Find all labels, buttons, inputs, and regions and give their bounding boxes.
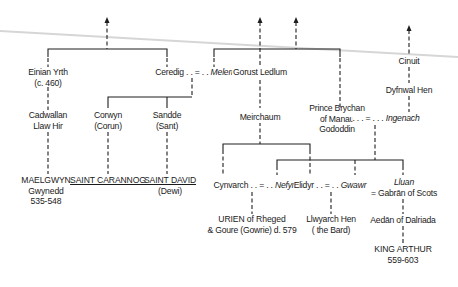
node-name: SAINT DAVID bbox=[144, 175, 196, 186]
node-dyfnwal-hen: Dyfnwal Hen bbox=[385, 85, 434, 96]
spouse-line: = Gabrān of Scots bbox=[371, 188, 437, 199]
node-maelgwyn: MAELGWYN Gwynedd 535-548 bbox=[21, 175, 70, 207]
node-name: Llwyarch Hen bbox=[306, 214, 356, 225]
node-corwyn: Corwyn (Corun) bbox=[94, 110, 122, 131]
node-name: Dyfnwal Hen bbox=[386, 85, 433, 96]
node-dates: 559-603 bbox=[374, 255, 431, 266]
node-aedan: Aedān of Dalriada bbox=[370, 215, 435, 226]
node-llywarch-hen: Llwyarch Hen ( the Bard) bbox=[306, 214, 356, 235]
node-name: Ceredig bbox=[155, 67, 184, 77]
node-name: Corwyn bbox=[94, 110, 122, 121]
node-alias: (Dewi) bbox=[144, 186, 196, 197]
spouse-name: Gwawr bbox=[341, 180, 367, 190]
node-sandde: Sandde (Sant) bbox=[153, 110, 181, 131]
node-alias: (Sant) bbox=[153, 121, 181, 132]
node-epithet: ( the Bard) bbox=[306, 225, 356, 236]
node-urien: URIEN of Rheged & Goure (Gowrie) d. 579 bbox=[207, 214, 296, 235]
node-name: Gorust Ledlum bbox=[233, 67, 287, 78]
node-cadwallan: Cadwallan Llaw Hir bbox=[29, 110, 67, 131]
node-name: Einian Yrth bbox=[28, 67, 68, 78]
node-realm: Gododdin bbox=[309, 124, 364, 135]
node-name: Elidyr bbox=[294, 180, 314, 190]
node-name: Meirchaum bbox=[240, 112, 281, 123]
spouse-name: Meleri bbox=[211, 67, 233, 77]
node-lluan: Lluan = Gabrān of Scots bbox=[371, 177, 437, 198]
node-einian-yrth: Einian Yrth (c. 460) bbox=[28, 67, 68, 88]
node-cinuit: Cinuit bbox=[398, 56, 421, 67]
node-ceredig-marriage: Ceredig . . = . . Meleri bbox=[155, 67, 233, 78]
node-epithet: Llaw Hir bbox=[29, 121, 67, 132]
node-name: Sandde bbox=[153, 110, 181, 121]
spouse-name: Ingenach bbox=[386, 113, 420, 123]
node-gorust-ledlum: Gorust Ledlum bbox=[232, 67, 288, 78]
marriage-sign: . . = . . bbox=[314, 180, 341, 190]
node-cynvarch-marriage: Cynvarch . . = . . Nefyn bbox=[214, 180, 297, 191]
node-name: MAELGWYN bbox=[21, 175, 70, 186]
node-name: Cynvarch bbox=[214, 180, 249, 190]
node-brychan-marriage: . . . = . . . Ingenach bbox=[352, 113, 419, 124]
node-king-arthur: KING ARTHUR 559-603 bbox=[374, 244, 431, 265]
node-saint-david: SAINT DAVID (Dewi) bbox=[144, 175, 196, 196]
family-tree-diagram: Einian Yrth (c. 460) Cadwallan Llaw Hir … bbox=[0, 0, 458, 287]
node-name: KING ARTHUR bbox=[374, 244, 431, 255]
node-meirchaum: Meirchaum bbox=[239, 112, 282, 123]
marriage-sign: . . . = . . . bbox=[352, 113, 385, 123]
marriage-sign: . . = . . bbox=[184, 67, 211, 77]
node-name: Prince Brychan bbox=[309, 103, 364, 114]
node-name: Cinuit bbox=[399, 56, 420, 67]
node-name: Lluan bbox=[371, 177, 437, 188]
node-name: Cadwallan bbox=[29, 110, 67, 121]
node-name: Aedān of Dalriada bbox=[370, 215, 435, 226]
node-name: URIEN of Rheged bbox=[207, 214, 296, 225]
node-reign: 535-548 bbox=[21, 196, 70, 207]
node-elidyr-marriage: Elidyr . . = . . Gwawr bbox=[294, 180, 367, 191]
node-alias: (Corun) bbox=[94, 121, 122, 132]
node-realm: Gwynedd bbox=[21, 186, 70, 197]
node-saint-carannog: SAINT CARANNOG bbox=[70, 175, 146, 186]
marriage-sign: . . = . . bbox=[248, 180, 275, 190]
node-name: SAINT CARANNOG bbox=[70, 175, 146, 186]
node-date: (c. 460) bbox=[28, 78, 68, 89]
page-fold-line bbox=[0, 31, 458, 57]
node-realm-death: & Goure (Gowrie) d. 579 bbox=[207, 225, 296, 236]
